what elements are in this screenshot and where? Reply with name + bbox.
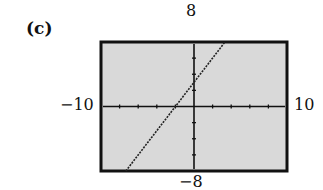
graphing-calculator-screen: [0, 0, 323, 190]
